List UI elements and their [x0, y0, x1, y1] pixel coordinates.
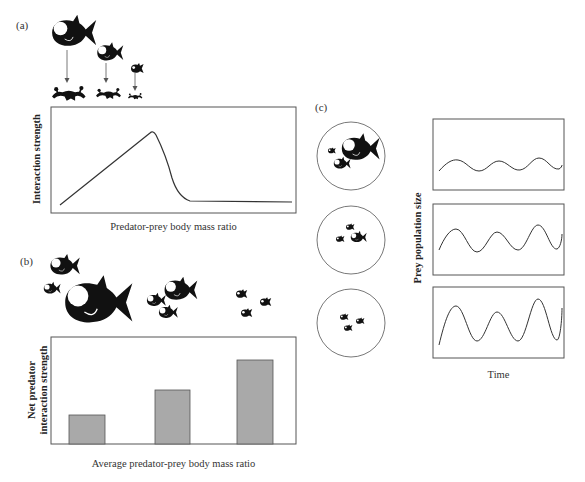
panel-a-line-chart — [51, 107, 296, 213]
bar-high — [237, 360, 273, 444]
tiny-fish-icon — [344, 324, 352, 331]
panel-a-predator-icons — [52, 15, 144, 101]
figure-canvas — [0, 0, 585, 482]
tiny-fish-icon — [356, 317, 364, 324]
prey-crab-icon — [52, 86, 86, 101]
tiny-fish-icon — [346, 223, 354, 230]
medium-predator-fish-icon — [97, 42, 123, 60]
large-predator-fish-icon — [52, 15, 96, 46]
panel-c-community-circles — [317, 122, 385, 357]
interaction-strength-curve — [60, 132, 292, 205]
prey-crab-icon — [128, 93, 142, 99]
community-circle-3 — [317, 289, 385, 357]
large-predator-fish-icon — [65, 275, 132, 322]
timeseries-frame-1 — [433, 119, 564, 190]
prey-crab-icon — [96, 88, 121, 99]
predator-fish-icon — [44, 282, 61, 294]
panel-c-x-axis-label: Time — [433, 369, 564, 380]
small-predator-fish-icon — [131, 63, 144, 73]
panel-a-x-axis-label: Predator-prey body mass ratio — [51, 221, 296, 232]
prey-population-curve-mid — [439, 225, 562, 252]
tiny-predator-fish-icon — [260, 297, 271, 306]
panel-c-label: (c) — [315, 101, 327, 113]
large-predator-fish-icon — [342, 133, 380, 160]
panel-b-y-axis-label-line2: interaction strength — [38, 330, 50, 450]
prey-population-curve-low — [439, 158, 562, 171]
predator-fish-icon — [50, 254, 79, 275]
small-fish-icon — [334, 157, 351, 169]
prey-population-curve-high — [439, 299, 562, 345]
panel-b-community-icons — [44, 254, 271, 323]
panel-b-bar-chart — [51, 337, 296, 444]
predator-fish-icon — [165, 277, 198, 300]
panel-c-y-axis-label: Prey population size — [412, 178, 424, 298]
small-fish-icon — [351, 231, 367, 242]
panel-a-y-axis-label: Interaction strength — [31, 104, 43, 214]
timeseries-frame-2 — [433, 204, 564, 275]
panel-b-label: (b) — [20, 255, 33, 267]
panel-b-y-axis-label-line1: Net predator — [26, 330, 38, 450]
tiny-predator-fish-icon — [236, 289, 247, 298]
panel-b-x-axis-label: Average predator-prey body mass ratio — [51, 458, 296, 469]
bar-medium — [155, 390, 190, 444]
tiny-fish-icon — [340, 313, 348, 320]
small-predator-fish-icon — [147, 293, 166, 306]
panel-c-time-series — [433, 119, 564, 358]
timeseries-frame-3 — [433, 287, 564, 358]
chart-frame — [51, 107, 296, 213]
panel-b-y-axis-label: Net predator interaction strength — [26, 330, 50, 450]
panel-a-label: (a) — [16, 19, 28, 31]
bar-low — [69, 415, 105, 444]
tiny-predator-fish-icon — [241, 308, 252, 317]
tiny-fish-icon — [336, 235, 344, 242]
small-predator-fish-icon — [159, 305, 178, 318]
tiny-fish-icon — [328, 147, 336, 153]
community-circle-2 — [317, 206, 385, 274]
